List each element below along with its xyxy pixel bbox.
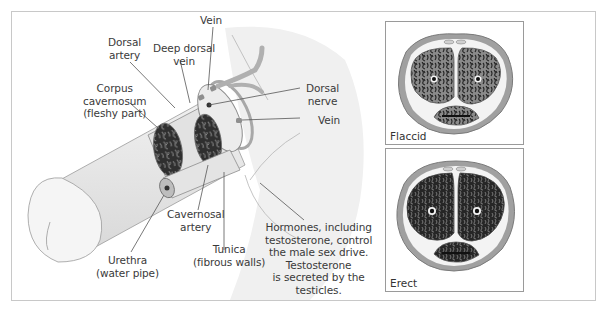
label-line: (water pipe) bbox=[96, 267, 159, 280]
label-line: vein bbox=[153, 55, 215, 68]
label-dorsal-nerve: Dorsal nerve bbox=[306, 82, 339, 107]
note-line: is secreted by the bbox=[265, 271, 372, 284]
cross-section-flaccid-illustration bbox=[386, 22, 525, 146]
label-dorsal-artery: Dorsal artery bbox=[108, 36, 141, 61]
label-line: nerve bbox=[306, 95, 339, 108]
label-vein-top: Vein bbox=[200, 14, 222, 27]
cross-section-caption: Erect bbox=[390, 277, 417, 289]
label-line: Cavernosal bbox=[167, 208, 224, 221]
cross-section-flaccid: Flaccid bbox=[385, 21, 524, 145]
label-cavernosal-artery: Cavernosal artery bbox=[167, 208, 224, 233]
label-line: (fibrous walls) bbox=[193, 256, 265, 269]
label-line: artery bbox=[108, 49, 141, 62]
label-line: Tunica bbox=[193, 243, 265, 256]
note-line: Hormones, including bbox=[265, 221, 372, 234]
label-line: Urethra bbox=[96, 254, 159, 267]
label-corpus-cavernosum: Corpus cavernosum (fleshy part) bbox=[83, 82, 146, 120]
note-line: testicles. bbox=[265, 284, 372, 297]
note-line: the male sex drive. bbox=[265, 246, 372, 259]
label-line: Dorsal bbox=[108, 36, 141, 49]
label-urethra: Urethra (water pipe) bbox=[96, 254, 159, 279]
label-tunica: Tunica (fibrous walls) bbox=[193, 243, 265, 268]
note-line: Testosterone bbox=[265, 259, 372, 272]
label-vein-side: Vein bbox=[318, 114, 340, 127]
hormones-note: Hormones, including testosterone, contro… bbox=[265, 221, 372, 296]
label-line: (fleshy part) bbox=[83, 107, 146, 120]
cross-section-caption: Flaccid bbox=[390, 130, 427, 142]
label-deep-dorsal-vein: Deep dorsal vein bbox=[153, 42, 215, 67]
label-line: artery bbox=[167, 221, 224, 234]
label-line: Deep dorsal bbox=[153, 42, 215, 55]
label-line: Dorsal bbox=[306, 82, 339, 95]
cross-section-erect: Erect bbox=[385, 148, 524, 292]
label-line: Corpus bbox=[83, 82, 146, 95]
note-line: testosterone, control bbox=[265, 234, 372, 247]
cross-section-erect-illustration bbox=[386, 149, 525, 293]
label-line: cavernosum bbox=[83, 95, 146, 108]
label-text: Vein bbox=[200, 14, 222, 26]
label-text: Vein bbox=[318, 114, 340, 126]
